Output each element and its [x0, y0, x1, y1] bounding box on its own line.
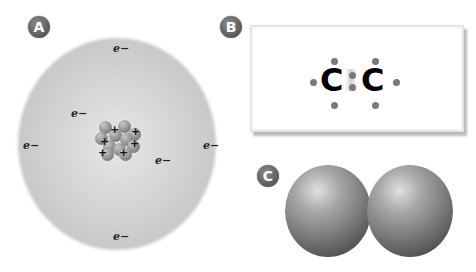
- shared-electron-dot: [349, 84, 356, 91]
- electron-dot: [331, 102, 338, 109]
- electron-label: e−: [155, 154, 171, 167]
- proton-plus: +: [119, 147, 128, 158]
- electron-dot: [393, 79, 400, 86]
- carbon-atom-right: C: [361, 64, 384, 96]
- electron-label: e−: [71, 107, 87, 120]
- electron-label: e−: [203, 139, 219, 152]
- shared-electron-dot: [349, 72, 356, 79]
- proton-plus: +: [98, 147, 107, 158]
- proton-plus: +: [131, 126, 140, 137]
- carbon-atom-left: C: [320, 64, 343, 96]
- electron-dot: [331, 58, 338, 65]
- proton-plus: +: [110, 124, 119, 135]
- atom-sphere-left: [285, 165, 371, 257]
- panel-c-badge: C: [257, 165, 279, 187]
- electron-label: e−: [23, 139, 39, 152]
- nucleus: + + + + + +: [93, 118, 143, 162]
- electron-label: e−: [113, 42, 129, 55]
- electron-label: e−: [113, 230, 129, 243]
- electron-dot: [372, 102, 379, 109]
- panel-b-badge: B: [220, 16, 242, 38]
- panel-a-badge: A: [28, 16, 50, 38]
- electron-dot: [372, 58, 379, 65]
- atom-sphere-right: [367, 165, 453, 257]
- electron-dot: [310, 79, 317, 86]
- lewis-structure-panel: C C: [250, 25, 464, 132]
- proton-plus: +: [130, 138, 139, 149]
